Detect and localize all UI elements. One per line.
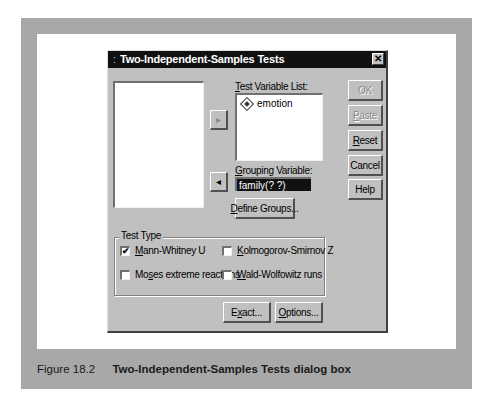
list-item[interactable]: emotion bbox=[240, 98, 293, 109]
close-button[interactable]: ✕ bbox=[372, 53, 384, 65]
ok-button[interactable]: OK bbox=[348, 80, 383, 101]
checkbox-checked[interactable]: ✔ bbox=[120, 246, 130, 256]
left-arrow-icon: ◂ bbox=[216, 176, 221, 187]
help-button[interactable]: Help bbox=[348, 179, 383, 200]
mann-whitney-checkbox[interactable]: ✔ Mann-Whitney U bbox=[120, 245, 205, 256]
grouping-variable-label: Grouping Variable: bbox=[235, 165, 312, 176]
check-icon: ✔ bbox=[122, 246, 130, 256]
checkbox-unchecked[interactable] bbox=[222, 270, 232, 280]
right-arrow-icon: ▸ bbox=[216, 114, 221, 125]
checkbox-label: Kolmogorov-Smirnov Z bbox=[237, 245, 333, 256]
list-item-label: emotion bbox=[257, 98, 293, 109]
define-groups-button[interactable]: Define Groups... bbox=[235, 198, 295, 219]
close-icon: ✕ bbox=[374, 53, 382, 64]
source-variable-list[interactable] bbox=[113, 81, 204, 208]
cancel-button[interactable]: Cancel bbox=[348, 155, 383, 176]
dialog-title: Two-Independent-Samples Tests bbox=[120, 51, 284, 68]
test-variable-list[interactable]: emotion bbox=[235, 93, 323, 161]
grouping-variable-field[interactable]: family(? ?) bbox=[235, 177, 311, 191]
test-type-label: Test Type bbox=[119, 230, 163, 241]
figure-number: Figure 18.2 bbox=[37, 363, 95, 375]
reset-button[interactable]: Reset bbox=[348, 130, 383, 151]
checkbox-label: Mann-Whitney U bbox=[135, 245, 205, 256]
wald-wolfowitz-checkbox[interactable]: Wald-Wolfowitz runs bbox=[222, 269, 322, 280]
scale-variable-icon bbox=[240, 96, 254, 110]
move-to-test-list-button[interactable]: ▸ bbox=[210, 110, 228, 130]
figure-caption: Figure 18.2 Two-Independent-Samples Test… bbox=[37, 363, 351, 375]
checkbox-label: Wald-Wolfowitz runs bbox=[237, 269, 322, 280]
checkbox-unchecked[interactable] bbox=[120, 270, 130, 280]
figure-title: Two-Independent-Samples Tests dialog box bbox=[112, 363, 351, 375]
exact-button[interactable]: Exact... bbox=[223, 302, 271, 323]
system-menu-icon[interactable]: : bbox=[113, 51, 116, 68]
paste-button[interactable]: Paste bbox=[348, 105, 383, 126]
title-bar[interactable]: : Two-Independent-Samples Tests ✕ bbox=[108, 51, 386, 68]
move-to-grouping-button[interactable]: ◂ bbox=[210, 172, 228, 192]
kolmogorov-smirnov-checkbox[interactable]: Kolmogorov-Smirnov Z bbox=[222, 245, 333, 256]
checkbox-unchecked[interactable] bbox=[222, 246, 232, 256]
two-independent-samples-dialog: : Two-Independent-Samples Tests ✕ ▸ ◂ Te… bbox=[107, 50, 388, 333]
options-button[interactable]: Options... bbox=[275, 302, 323, 323]
test-variable-list-label: Test Variable List: bbox=[235, 81, 308, 92]
